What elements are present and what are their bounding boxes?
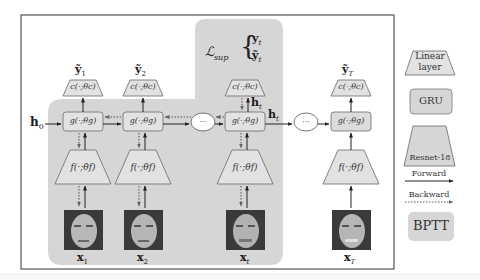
encoder-text-T: f(·;θf) — [326, 162, 376, 172]
encoder-text-1: f(·;θf) — [58, 162, 108, 172]
face-image-2 — [124, 210, 163, 250]
gru-text-T: g(·;θg) — [331, 116, 371, 125]
pred-sub-T: T — [348, 70, 353, 78]
loss-symbol: ℒ — [205, 44, 214, 59]
face-image-1 — [64, 210, 103, 250]
pred-sub-2: 2 — [141, 70, 145, 78]
hidden-label-horizontal-symbol: h — [268, 108, 276, 121]
input-label-T: xT — [344, 251, 355, 266]
input-label-t: xt — [240, 251, 249, 266]
legend-gru-label: GRU — [410, 95, 452, 106]
loss-label: ℒsup — [205, 44, 228, 62]
classifier-text-T: c(·;θc) — [331, 82, 371, 91]
hidden-label-vertical-symbol: h — [251, 96, 259, 109]
classifier-text-1: c(·;θc) — [63, 82, 103, 91]
hidden-label-vertical: ht — [251, 96, 262, 111]
pred-sub-1: 1 — [81, 70, 85, 78]
legend-forward-label: Forward — [405, 169, 453, 178]
face-image-t — [226, 210, 265, 250]
input-sub-2: 2 — [144, 258, 148, 266]
input-label-2: x2 — [137, 251, 148, 266]
face-image-T — [332, 210, 371, 250]
input-sub-t: t — [247, 258, 250, 266]
hidden-label-horizontal-sub: t — [276, 115, 279, 123]
gru-text-t: g(·;θg) — [225, 116, 265, 125]
legend-linear-label-line2: layer — [405, 62, 455, 72]
hidden-label-vertical-sub: t — [259, 103, 262, 111]
diagram-canvas: h0 ℒsup { yt ỹt ht ht ỹ1 ỹ2 ỹT c(·;θc) c… — [0, 0, 480, 280]
loss-pred: ỹt — [252, 49, 261, 64]
pred-label-1: ỹ1 — [75, 63, 86, 78]
input-label-1: x1 — [77, 251, 88, 266]
legend-backward-label: Backward — [405, 190, 453, 199]
encoder-text-2: f(·;θf) — [118, 162, 168, 172]
loss-target: yt — [252, 32, 261, 47]
gru-text-2: g(·;θg) — [123, 116, 163, 125]
input-sub-T: T — [351, 258, 356, 266]
input-sub-1: 1 — [84, 258, 88, 266]
page-edge-shadow — [0, 273, 480, 280]
gru-text-1: g(·;θg) — [63, 116, 103, 125]
ellipsis-text-1: ... — [191, 115, 215, 124]
classifier-text-2: c(·;θc) — [123, 82, 163, 91]
hidden-init-sub: 0 — [39, 122, 44, 131]
legend-bptt-label: BPTT — [408, 218, 454, 233]
pred-label-2: ỹ2 — [135, 63, 146, 78]
legend-linear-label-line1: Linear — [405, 51, 455, 61]
hidden-init-label: h0 — [30, 115, 44, 131]
classifier-text-t: c(·;θc) — [225, 82, 265, 91]
loss-sub: sup — [214, 53, 228, 62]
pred-label-T: ỹT — [342, 63, 353, 78]
loss-pred-sub: t — [258, 56, 261, 64]
hidden-init-symbol: h — [30, 115, 39, 129]
loss-target-sub: t — [258, 39, 261, 47]
hidden-label-horizontal: ht — [268, 108, 279, 123]
legend-resnet-label: Resnet-18 — [403, 153, 457, 162]
ellipsis-text-2: ... — [294, 115, 318, 124]
encoder-text-t: f(·;θf) — [220, 162, 270, 172]
